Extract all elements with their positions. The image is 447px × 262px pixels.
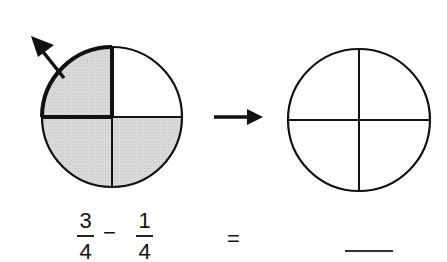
left-fraction-circle <box>42 47 182 187</box>
arrow-right-icon <box>214 109 263 125</box>
denominator: 4 <box>138 241 150 262</box>
numerator: 1 <box>138 210 150 232</box>
fraction-bar <box>77 235 94 237</box>
fraction-bar <box>136 235 153 237</box>
denominator: 4 <box>79 241 91 262</box>
fraction-diagram <box>0 0 447 262</box>
minus-sign: − <box>103 222 116 244</box>
fraction-one-quarter: 1 4 <box>136 210 153 262</box>
remove-arrow-icon <box>31 36 64 78</box>
fraction-three-quarters: 3 4 <box>77 210 94 262</box>
equals-sign: = <box>227 228 240 250</box>
numerator: 3 <box>79 210 91 232</box>
answer-blank[interactable] <box>345 250 393 252</box>
right-fraction-circle <box>288 49 430 191</box>
